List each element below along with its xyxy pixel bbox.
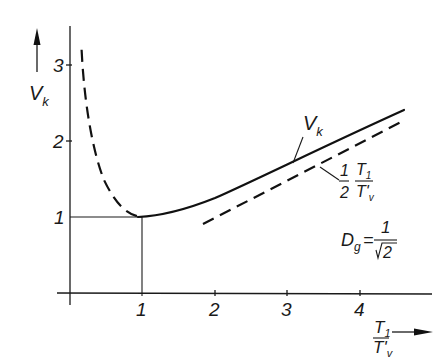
x-tick-label-2: 2 — [208, 299, 220, 320]
y-tick-label-3: 3 — [53, 55, 64, 76]
asym-leader — [320, 167, 339, 180]
x-tick-label-1: 1 — [136, 299, 147, 320]
dg-numerator: 1 — [381, 218, 390, 237]
x-label-arrow-head-icon — [414, 329, 433, 336]
asym-half-denominator: 2 — [339, 184, 349, 201]
y-label-arrow-head-icon — [34, 28, 41, 45]
chart: 3 2 1 1 2 3 4 Vk T1 T'v Vk 1 2 T1 T — [0, 0, 448, 360]
dg-denominator: 2 — [382, 244, 392, 261]
dg-label: Dg — [341, 230, 361, 254]
x-tick-label-3: 3 — [281, 299, 292, 320]
vk-curve-label: Vk — [303, 112, 324, 139]
vk-curve-dashed — [82, 50, 142, 217]
asym-frac-numerator: T1 — [356, 161, 371, 181]
asym-frac-denominator: T'v — [356, 183, 375, 203]
y-axis-label: Vk — [29, 82, 50, 109]
x-axis-label-numerator: T1 — [374, 318, 391, 339]
dg-equals: = — [363, 230, 374, 250]
x-axis — [57, 293, 432, 294]
x-axis-label-denominator: T'v — [373, 338, 394, 359]
y-tick-label-1: 1 — [54, 207, 65, 228]
x-tick-label-4: 4 — [354, 299, 365, 320]
asymptote-dashed — [203, 121, 403, 224]
asym-half-numerator: 1 — [340, 162, 349, 179]
y-tick-label-2: 2 — [52, 131, 64, 152]
